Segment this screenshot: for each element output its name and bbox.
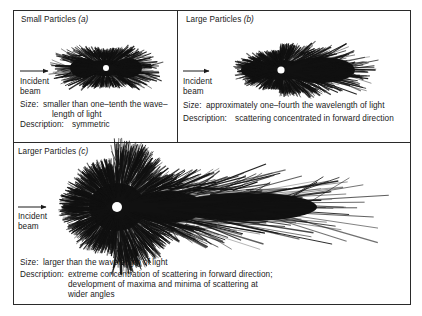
particle-dot-icon <box>103 65 109 71</box>
forward-scattering-pattern <box>233 41 378 99</box>
particle-dot-icon <box>112 202 122 212</box>
extreme-forward-scattering-pattern <box>58 138 388 276</box>
scattering-artwork <box>0 0 422 316</box>
particle-dot-icon <box>277 66 284 73</box>
